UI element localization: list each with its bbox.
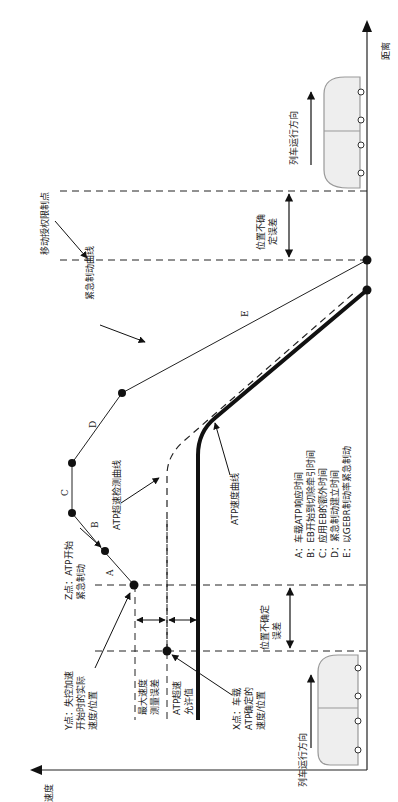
- position-uncertainty-left-label: 位置不确定 误差: [259, 605, 282, 650]
- legend-item-a: A：车载ATP响应时间: [293, 472, 304, 558]
- svg-text:紧急制动: 紧急制动: [75, 564, 86, 600]
- pointer-arrows: [55, 221, 232, 695]
- atp-braking-diagram: A B C D E 速度 距离 Y点：失控加速 开始时的实际 速度/位置 最大速…: [0, 0, 398, 802]
- position-uncertainty-arrows: [289, 194, 290, 648]
- max-speed-error-label: 最大速度 测量误差: [137, 679, 160, 715]
- speed-axis: [30, 765, 367, 775]
- svg-text:最大速度: 最大速度: [137, 679, 148, 715]
- point-bc: [68, 509, 76, 517]
- y-point-label: Y点：失控加速 开始时的实际 速度/位置: [63, 671, 98, 732]
- ma-limit-label: 移动授权限制点: [39, 192, 50, 255]
- x-point-dot: [163, 647, 172, 656]
- z-point-label: Z点：ATP开始 紧急制动: [63, 541, 86, 600]
- distance-axis-label: 距离: [380, 42, 391, 60]
- segment-b-label: B: [90, 521, 100, 528]
- z-point-dot: [101, 547, 109, 555]
- curve-points: [68, 256, 372, 656]
- train-direction-left-label: 列车运行方向: [297, 733, 308, 787]
- point-cd: [68, 459, 76, 467]
- segment-labels: A B C D E: [60, 310, 250, 577]
- stop-point-dot: [363, 286, 372, 295]
- svg-text:速度/位置: 速度/位置: [87, 691, 98, 730]
- svg-text:ATP确定的: ATP确定的: [243, 687, 254, 730]
- svg-text:位置不确: 位置不确: [255, 214, 266, 250]
- svg-text:误差: 误差: [271, 622, 282, 640]
- train-direction-right-label: 列车运行方向: [288, 111, 299, 165]
- position-uncertainty-right-label: 位置不确 定误差: [255, 214, 278, 250]
- speed-axis-label: 速度: [43, 784, 54, 802]
- segment-c-label: C: [60, 489, 70, 496]
- legend-item-b: B：EB开始到切除牵引时间: [305, 450, 316, 558]
- train-icon-left: [318, 655, 361, 765]
- emergency-curve-label: 紧急制动曲线: [84, 246, 95, 300]
- svg-text:测量误差: 测量误差: [149, 679, 160, 715]
- legend: A：车载ATP响应时间 B：EB开始到切除牵引时间 C：应用EB的额外时间 D：…: [293, 446, 352, 558]
- svg-text:位置不确定: 位置不确定: [259, 605, 270, 650]
- segment-d-label: D: [88, 421, 98, 428]
- ma-point-dot: [363, 256, 372, 265]
- legend-item-e: E：以GEBR制动率紧急制动: [341, 446, 352, 558]
- speed-curve-label: ATP速度曲线: [229, 473, 240, 525]
- distance-axis: [362, 20, 372, 770]
- segment-e-label: E: [240, 310, 250, 317]
- overspeed-curve-label: ATP超速检测曲线: [111, 460, 122, 530]
- svg-text:开始时的实际: 开始时的实际: [75, 676, 86, 730]
- legend-item-d: D：紧急制动建立时间: [329, 470, 340, 558]
- svg-text:ATP超速: ATP超速: [171, 681, 182, 715]
- x-point-label: X点：车载 ATP确定的 速度/位置: [231, 687, 266, 730]
- svg-text:定误差: 定误差: [267, 218, 278, 245]
- svg-text:速度/位置: 速度/位置: [255, 691, 266, 730]
- train-icon-right: [324, 77, 364, 188]
- legend-item-c: C：应用EB的额外时间: [317, 468, 328, 558]
- svg-text:允许值: 允许值: [183, 688, 194, 715]
- segment-a-label: A: [105, 569, 115, 577]
- y-point-dot: [130, 581, 139, 590]
- svg-text:Y点：失控加速: Y点：失控加速: [63, 671, 74, 732]
- atp-overspeed-allow-label: ATP超速 允许值: [171, 681, 194, 715]
- svg-text:X点：车载: X点：车载: [231, 688, 242, 730]
- point-de: [118, 389, 126, 397]
- svg-text:Z点：ATP开始: Z点：ATP开始: [63, 541, 74, 600]
